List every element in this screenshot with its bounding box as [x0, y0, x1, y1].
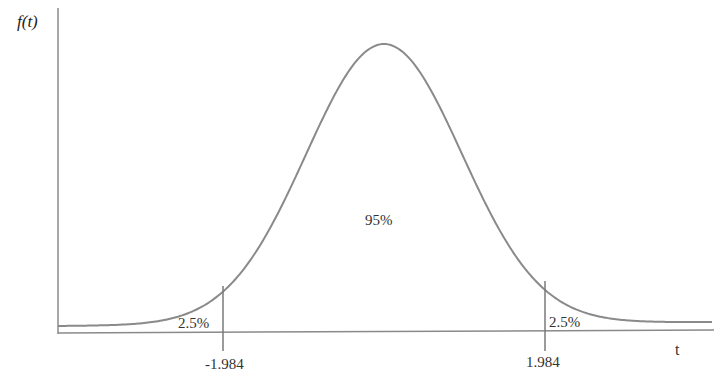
t-distribution-chart: f(t) t 95% 2.5% 2.5% -1.984 1.984: [0, 0, 721, 384]
x-axis-label: t: [675, 341, 680, 358]
right-tail-label: 2.5%: [549, 314, 580, 330]
density-curve: [58, 44, 712, 326]
center-region-label: 95%: [365, 212, 393, 228]
y-axis-label: f(t): [17, 12, 38, 31]
right-critical-value: 1.984: [526, 354, 560, 370]
left-tail-label: 2.5%: [178, 315, 209, 331]
x-axis: [58, 330, 714, 333]
left-critical-value: -1.984: [205, 356, 244, 372]
